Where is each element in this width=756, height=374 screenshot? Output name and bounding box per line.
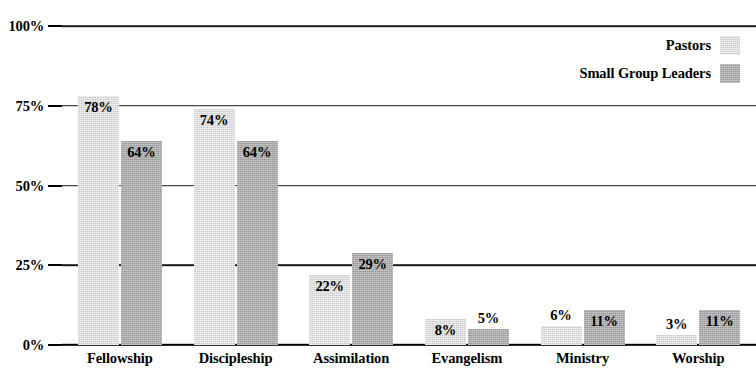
y-tick-mark — [48, 25, 62, 27]
bar-value-label: 5% — [478, 310, 499, 327]
chart-legend: PastorsSmall Group Leaders — [579, 36, 740, 83]
x-axis-label-evangelism: Evangelism — [431, 350, 502, 367]
legend-item: Small Group Leaders — [579, 64, 740, 83]
y-tick-mark — [48, 105, 62, 107]
bar-value-label: 78% — [84, 99, 112, 116]
y-tick-label: 25% — [16, 257, 44, 274]
legend-item: Pastors — [666, 36, 740, 55]
bar: 11% — [699, 310, 740, 345]
y-axis: 0%25%50%75%100% — [0, 0, 46, 374]
bar: 6% — [541, 326, 582, 345]
bar: 64% — [237, 141, 278, 345]
bar: 11% — [584, 310, 625, 345]
bar: 78% — [78, 96, 119, 345]
legend-label: Pastors — [666, 37, 711, 54]
y-tick-mark — [48, 344, 62, 346]
y-tick-label: 50% — [16, 177, 44, 194]
bar: 64% — [121, 141, 162, 345]
bar-value-label: 64% — [127, 144, 155, 161]
bar-value-label: 22% — [315, 278, 343, 295]
y-tick-label: 0% — [23, 337, 44, 354]
y-tick-label: 100% — [9, 18, 44, 35]
bar-value-label: 3% — [666, 316, 687, 333]
bar-value-label: 11% — [706, 313, 734, 330]
bar: 22% — [309, 275, 350, 345]
bar-value-label: 64% — [243, 144, 271, 161]
bar: 5% — [468, 329, 509, 345]
legend-swatch — [720, 64, 740, 83]
y-tick-label: 75% — [16, 97, 44, 114]
legend-swatch — [720, 36, 740, 55]
bar-value-label: 29% — [358, 256, 386, 273]
x-axis-label-fellowship: Fellowship — [87, 350, 153, 367]
legend-label: Small Group Leaders — [579, 65, 711, 82]
bar-chart: 0%25%50%75%100% 78%64%74%64%22%29%8%5%6%… — [0, 0, 756, 374]
bar-value-label: 6% — [550, 307, 571, 324]
x-axis-label-discipleship: Discipleship — [199, 350, 273, 367]
bar: 29% — [352, 253, 393, 346]
bar-value-label: 8% — [435, 322, 456, 339]
y-tick-mark — [48, 264, 62, 266]
x-axis-label-ministry: Ministry — [556, 350, 609, 367]
bar: 8% — [425, 319, 466, 345]
x-axis-label-worship: Worship — [672, 350, 725, 367]
y-tick-mark — [48, 185, 62, 187]
bar-value-label: 74% — [200, 112, 228, 129]
x-axis-label-assimilation: Assimilation — [313, 350, 389, 367]
x-axis-labels: FellowshipDiscipleshipAssimilationEvange… — [62, 350, 756, 374]
bar: 3% — [656, 335, 697, 345]
bar-value-label: 11% — [590, 313, 618, 330]
bar: 74% — [194, 109, 235, 345]
